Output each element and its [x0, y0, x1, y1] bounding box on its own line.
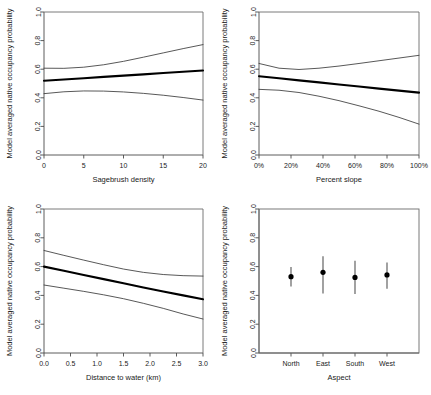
x-tick-label: 1.5 [119, 360, 129, 367]
y-tick-label: 0.8 [250, 36, 257, 46]
y-tick-label: 0.6 [35, 262, 42, 272]
y-tick-label: 0.2 [35, 319, 42, 329]
y-tick-label: 0.0 [35, 150, 42, 160]
line-series-group [259, 55, 419, 124]
y-tick-label: 0.4 [250, 93, 257, 103]
multi-panel-figure: 0.00.20.40.60.81.0Model averaged native … [0, 0, 431, 395]
x-tick-label: 15 [159, 162, 167, 169]
mean-estimate-line [44, 70, 203, 80]
y-axis: 0.00.20.40.60.81.0 [250, 204, 260, 358]
line-series-group [44, 250, 203, 319]
mean-estimate-line [44, 267, 203, 300]
x-axis-title: Aspect [328, 373, 352, 382]
x-tick-label: East [316, 360, 330, 367]
panel-sagebrush-density: 0.00.20.40.60.81.0Model averaged native … [0, 0, 215, 197]
data-point [352, 275, 357, 280]
x-tick-label: 0% [254, 162, 264, 169]
data-point [320, 270, 325, 275]
x-tick-label: 10 [120, 162, 128, 169]
y-axis: 0.00.20.40.60.81.0 [250, 7, 260, 160]
confidence-interval-line [44, 91, 203, 100]
x-tick-label: 2.0 [145, 360, 155, 367]
x-axis: NorthEastSouthWest [259, 353, 419, 367]
y-axis-title: Model averaged native occupancy probabil… [5, 8, 14, 158]
x-tick-label: North [282, 360, 299, 367]
y-tick-label: 0.0 [250, 150, 257, 160]
chart-canvas: 0.00.20.40.60.81.0Model averaged native … [0, 197, 215, 395]
y-tick-label: 0.8 [250, 233, 257, 243]
x-tick-label: 20% [284, 162, 298, 169]
y-axis-title: Model averaged native occupancy probabil… [220, 8, 229, 158]
x-tick-label: 20 [199, 162, 207, 169]
mean-estimate-line [259, 76, 419, 92]
y-tick-label: 1.0 [250, 204, 257, 214]
data-point [288, 274, 293, 279]
x-axis-title: Percent slope [316, 175, 362, 184]
confidence-interval-line [259, 55, 419, 69]
y-tick-label: 0.2 [250, 319, 257, 329]
chart-canvas: 0.00.20.40.60.81.0Model averaged native … [0, 0, 215, 197]
error-bar-series [288, 256, 389, 294]
y-tick-label: 0.6 [35, 64, 42, 74]
y-tick-label: 0.8 [35, 233, 42, 243]
y-axis: 0.00.20.40.60.81.0 [35, 7, 45, 160]
x-axis: 05101520 [42, 155, 207, 169]
y-tick-label: 1.0 [250, 7, 257, 17]
confidence-interval-line [44, 45, 203, 69]
y-tick-label: 0.2 [250, 121, 257, 131]
y-tick-label: 0.4 [250, 290, 257, 300]
x-axis-title: Sagebrush density [92, 175, 154, 184]
y-axis-title: Model averaged native occupancy probabil… [5, 206, 14, 356]
panel-aspect: 0.00.20.40.60.81.0Model averaged native … [215, 197, 431, 395]
y-tick-label: 0.4 [35, 93, 42, 103]
y-tick-label: 0.6 [250, 262, 257, 272]
x-tick-label: 5 [82, 162, 86, 169]
line-series-group [44, 45, 203, 100]
x-tick-label: 3.0 [198, 360, 208, 367]
x-axis: 0%20%40%60%80%100% [254, 155, 428, 169]
x-tick-label: 100% [410, 162, 428, 169]
x-tick-label: 1.0 [92, 360, 102, 367]
x-axis-title: Distance to water (km) [86, 373, 162, 382]
chart-canvas: 0.00.20.40.60.81.0Model averaged native … [215, 0, 431, 197]
x-tick-label: 80% [380, 162, 394, 169]
y-tick-label: 0.0 [35, 348, 42, 358]
y-tick-label: 1.0 [35, 7, 42, 17]
confidence-interval-line [44, 285, 203, 319]
panel-percent-slope: 0.00.20.40.60.81.0Model averaged native … [215, 0, 431, 197]
x-axis: 0.00.51.01.52.02.53.0 [39, 353, 208, 367]
y-tick-label: 0.6 [250, 64, 257, 74]
x-tick-label: South [346, 360, 364, 367]
y-tick-label: 0.4 [35, 290, 42, 300]
y-axis: 0.00.20.40.60.81.0 [35, 204, 45, 358]
x-tick-label: 40% [316, 162, 330, 169]
y-tick-label: 0.0 [250, 348, 257, 358]
y-tick-label: 0.8 [35, 36, 42, 46]
panel-distance-to-water: 0.00.20.40.60.81.0Model averaged native … [0, 197, 215, 395]
confidence-interval-line [259, 89, 419, 124]
x-tick-label: 0.5 [66, 360, 76, 367]
x-tick-label: 0 [42, 162, 46, 169]
x-tick-label: West [379, 360, 395, 367]
data-point [384, 272, 389, 277]
chart-canvas: 0.00.20.40.60.81.0Model averaged native … [215, 197, 431, 395]
x-tick-label: 0.0 [39, 360, 49, 367]
y-tick-label: 1.0 [35, 204, 42, 214]
x-tick-label: 60% [348, 162, 362, 169]
x-tick-label: 2.5 [172, 360, 182, 367]
y-axis-title: Model averaged native occupancy probabil… [220, 206, 229, 356]
y-tick-label: 0.2 [35, 121, 42, 131]
plot-frame [259, 209, 419, 353]
